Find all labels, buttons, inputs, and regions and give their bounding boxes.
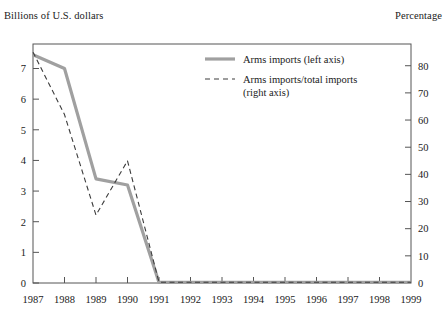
x-tick-label: 1992 [180,294,201,305]
chart-legend: Arms imports (left axis)Arms imports/tot… [205,54,357,99]
x-tick-label: 1996 [306,294,327,305]
series-line [33,55,411,283]
chart-container: Billions of U.S. dollars Percentage 1987… [0,0,445,316]
legend-label: Arms imports/total imports [243,74,357,85]
y2-axis-labels: 01020304050607080 [418,61,429,289]
y-axis-labels: 01234567 [21,63,27,288]
y-tick-label: 0 [21,278,26,289]
x-tick-label: 1999 [401,294,422,305]
y2-tick-label: 60 [418,115,429,126]
y2-tick-label: 20 [418,223,429,234]
axis-ticks [33,66,411,283]
y-tick-label: 3 [21,186,26,197]
y2-tick-label: 10 [418,251,429,262]
line-chart-plot: 1987198819891990199119921993199419951996… [0,0,445,316]
y-tick-label: 5 [21,125,26,136]
legend-label-line2: (right axis) [243,87,290,99]
x-tick-label: 1997 [338,294,359,305]
x-tick-label: 1989 [86,294,107,305]
legend-label: Arms imports (left axis) [243,54,345,66]
y2-tick-label: 50 [418,142,429,153]
x-tick-label: 1991 [149,294,170,305]
x-axis-labels: 1987198819891990199119921993199419951996… [23,294,422,305]
y-tick-label: 6 [21,94,26,105]
x-tick-label: 1995 [275,294,296,305]
y2-tick-label: 40 [418,169,429,180]
data-series [33,52,411,282]
x-tick-label: 1994 [243,294,265,305]
y-tick-label: 2 [21,217,26,228]
x-tick-label: 1990 [117,294,138,305]
y2-tick-label: 80 [418,61,429,72]
x-tick-label: 1998 [369,294,390,305]
series-line [33,52,411,282]
y-tick-label: 7 [21,63,26,74]
x-tick-label: 1987 [23,294,44,305]
y2-tick-label: 70 [418,88,429,99]
y-tick-label: 4 [21,155,27,166]
y2-tick-label: 30 [418,196,429,207]
y2-tick-label: 0 [418,278,423,289]
x-tick-label: 1993 [212,294,233,305]
x-tick-label: 1988 [54,294,75,305]
y-tick-label: 1 [21,247,26,258]
